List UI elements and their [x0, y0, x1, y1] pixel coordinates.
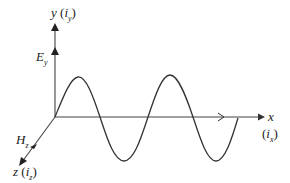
x-axis-label: x [268, 110, 274, 123]
wave-curve [55, 75, 105, 117]
h-field-arrowhead-icon [30, 144, 37, 149]
x-axis-letter: x [268, 109, 274, 124]
sine-wave [55, 75, 238, 161]
h-symbol: H [16, 132, 25, 147]
h-sub: z [25, 141, 28, 150]
h-field-label: Hz [16, 133, 29, 150]
x-unit-vector-label: (ix) [262, 127, 278, 144]
e-symbol: E [36, 49, 44, 64]
e-field-label: Ey [36, 50, 48, 67]
em-wave-diagram [0, 0, 290, 183]
y-axis-arrowhead-icon [51, 23, 59, 31]
e-sub: y [44, 58, 48, 67]
e-field-arrowhead-icon [51, 47, 59, 55]
y-axis-letter: y [51, 5, 57, 20]
z-axis-label: z (iz) [13, 165, 37, 182]
y-axis-label: y (iy) [51, 6, 76, 23]
z-axis-letter: z [13, 164, 18, 179]
x-axis-arrowhead-icon [258, 114, 265, 121]
